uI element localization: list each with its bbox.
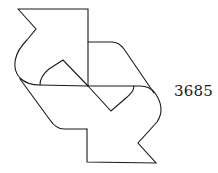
lower-left-band (20, 79, 87, 129)
upper-right-band (88, 42, 154, 93)
diagram-figure: 3685 (0, 0, 218, 173)
upper-fold-triangle (40, 60, 88, 86)
figure-number: 3685 (174, 82, 213, 100)
lower-fold-triangle (88, 86, 134, 111)
